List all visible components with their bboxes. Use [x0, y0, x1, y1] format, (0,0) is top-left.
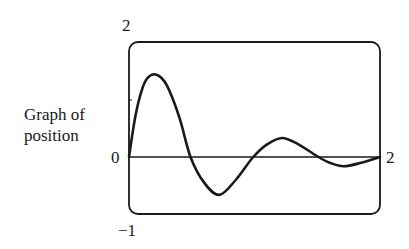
x-max-label: 2: [386, 149, 395, 166]
y-axis-title-line-2: position: [24, 125, 85, 146]
plot-frame: [129, 42, 380, 214]
y-axis-title-line-1: Graph of: [24, 104, 85, 125]
y-max-label: 2: [122, 17, 131, 34]
y-zero-label: 0: [111, 149, 120, 166]
y-min-label: −1: [118, 222, 136, 239]
position-curve: [129, 74, 380, 195]
y-axis-title: Graph of position: [24, 104, 85, 146]
